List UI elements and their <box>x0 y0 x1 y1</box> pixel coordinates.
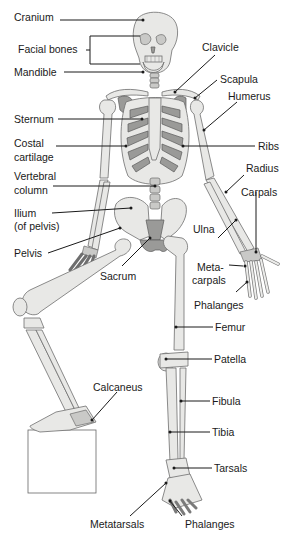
label-ribs: Ribs <box>258 140 279 152</box>
label-calcaneus: Calcaneus <box>93 381 143 393</box>
label-humerus: Humerus <box>228 90 271 102</box>
label-femur: Femur <box>215 321 245 333</box>
label-patella: Patella <box>214 353 246 365</box>
label-tarsals: Tarsals <box>214 462 247 474</box>
cervical-spine <box>150 73 159 88</box>
label-phalanges-hand: Phalanges <box>194 299 244 311</box>
label-costal-2: cartilage <box>14 151 54 163</box>
label-ulna: Ulna <box>193 223 215 235</box>
label-facial-bones: Facial bones <box>18 43 78 55</box>
left-arm <box>70 100 116 276</box>
label-carpals: Carpals <box>241 186 277 198</box>
label-metacarpals-2: carpals <box>192 274 226 286</box>
label-vertebral-1: Vertebral <box>14 170 56 182</box>
label-radius: Radius <box>246 162 279 174</box>
label-cranium: Cranium <box>14 11 54 23</box>
facial-bones-bracket <box>86 36 140 64</box>
lumbar-spine <box>150 178 160 209</box>
label-costal-1: Costal <box>14 137 44 149</box>
support-block <box>28 430 96 493</box>
label-ilium-1: Ilium <box>14 207 36 219</box>
label-mandible: Mandible <box>14 66 57 78</box>
label-metacarpals-1: Meta- <box>197 261 224 273</box>
label-metatarsals: Metatarsals <box>90 518 144 530</box>
label-fibula: Fibula <box>212 395 241 407</box>
label-scapula: Scapula <box>220 73 258 85</box>
label-sternum: Sternum <box>14 113 54 125</box>
label-tibia: Tibia <box>212 426 234 438</box>
label-ilium-2: (of pelvis) <box>14 220 60 232</box>
rib-cage <box>121 98 189 185</box>
label-pelvis: Pelvis <box>14 247 42 259</box>
label-vertebral-2: column <box>14 184 48 196</box>
label-sacrum: Sacrum <box>100 270 136 282</box>
label-clavicle: Clavicle <box>202 41 239 53</box>
label-phalanges-foot: Phalanges <box>185 518 235 530</box>
